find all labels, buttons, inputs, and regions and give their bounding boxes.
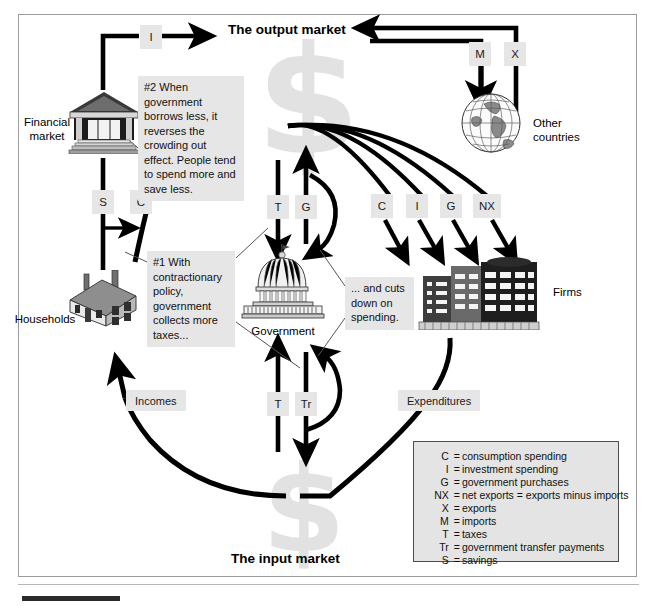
legend-equals: = <box>452 488 462 501</box>
callout-note-2: #2 When government borrows less, it reve… <box>138 76 244 201</box>
legend-table: C=consumption spendingI=investment spend… <box>414 449 629 566</box>
chip-gov-purchases-firms: G <box>440 194 462 218</box>
legend-box: C=consumption spendingI=investment spend… <box>413 441 619 562</box>
chip-consumption-firms: C <box>371 194 393 218</box>
legend-definition: taxes <box>462 527 629 540</box>
chip-savings: S <box>92 190 114 214</box>
chip-incomes: Incomes <box>126 390 186 411</box>
chip-exports: X <box>504 42 526 66</box>
legend-definition: consumption spending <box>462 449 629 462</box>
firms-caption: Firms <box>553 285 603 299</box>
legend-row: G=government purchases <box>414 475 629 488</box>
legend-definition: government transfer payments <box>462 540 629 553</box>
office-buildings-icon <box>417 252 545 330</box>
circular-flow-diagram: $ $ The output market The input market <box>0 0 657 606</box>
legend-equals: = <box>452 540 462 553</box>
legend-row: NX=net exports = exports minus imports <box>414 488 629 501</box>
input-market-title: The input market <box>231 551 340 566</box>
legend-symbol: NX <box>414 488 452 501</box>
chip-taxes-top: T <box>267 195 289 219</box>
capitol-building-icon <box>240 244 326 320</box>
legend-equals: = <box>452 514 462 527</box>
financial-market-caption: Financialmarket <box>17 115 77 144</box>
chip-investment-top: I <box>140 25 162 49</box>
legend-symbol: C <box>414 449 452 462</box>
legend-row: M=imports <box>414 514 629 527</box>
output-market-title: The output market <box>228 22 346 37</box>
legend-equals: = <box>452 449 462 462</box>
globe-icon <box>460 92 522 154</box>
callout-note-3: ... and cuts down on spending. <box>345 277 414 330</box>
bank-building-icon <box>68 92 140 154</box>
legend-definition: government purchases <box>462 475 629 488</box>
legend-symbol: M <box>414 514 452 527</box>
legend-definition: net exports = exports minus imports <box>462 488 629 501</box>
chip-investment-firms: I <box>406 194 428 218</box>
legend-equals: = <box>452 501 462 514</box>
legend-row: X=exports <box>414 501 629 514</box>
chip-transfers: Tr <box>295 392 317 416</box>
chip-taxes-bottom: T <box>267 392 289 416</box>
legend-symbol: I <box>414 462 452 475</box>
chip-expenditures: Expenditures <box>398 390 480 411</box>
legend-symbol: T <box>414 527 452 540</box>
legend-symbol: S <box>414 553 452 566</box>
legend-equals: = <box>452 527 462 540</box>
legend-equals: = <box>452 553 462 566</box>
legend-row: S=savings <box>414 553 629 566</box>
legend-equals: = <box>452 462 462 475</box>
legend-definition: imports <box>462 514 629 527</box>
chip-imports: M <box>469 42 491 66</box>
other-countries-caption: Othercountries <box>533 116 595 145</box>
leader-note1-to-households <box>125 252 147 262</box>
callout-note-1: #1 With contractionary policy, governmen… <box>147 251 235 347</box>
chip-net-exports-firms: NX <box>473 194 501 218</box>
legend-symbol: X <box>414 501 452 514</box>
legend-definition: exports <box>462 501 629 514</box>
government-caption: Government <box>243 324 323 338</box>
legend-definition: savings <box>462 553 629 566</box>
legend-definition: investment spending <box>462 462 629 475</box>
legend-row: C=consumption spending <box>414 449 629 462</box>
legend-row: I=investment spending <box>414 462 629 475</box>
chip-gov-purchases-top: G <box>295 195 317 219</box>
legend-row: Tr=government transfer payments <box>414 540 629 553</box>
households-caption: Households <box>14 312 76 326</box>
legend-symbol: G <box>414 475 452 488</box>
legend-row: T=taxes <box>414 527 629 540</box>
legend-symbol: Tr <box>414 540 452 553</box>
legend-equals: = <box>452 475 462 488</box>
